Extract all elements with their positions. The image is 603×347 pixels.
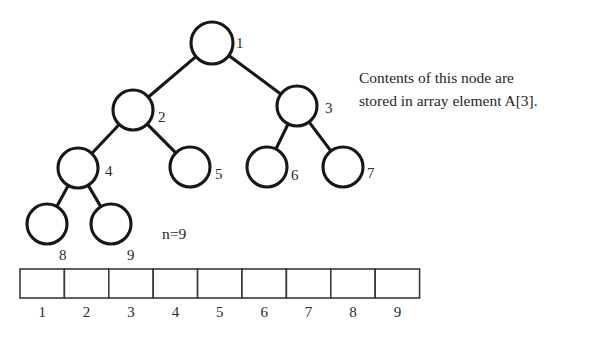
node-number-label-1: 1 bbox=[236, 35, 244, 51]
tree-diagram: 123456789 123456789 bbox=[0, 0, 603, 347]
tree-node-6[interactable]: 6 bbox=[247, 147, 299, 187]
array-cell-box-3[interactable] bbox=[109, 269, 153, 298]
tree-node-1[interactable]: 1 bbox=[191, 22, 244, 64]
node-circle-1[interactable] bbox=[191, 22, 233, 64]
node-circle-7[interactable] bbox=[323, 147, 363, 187]
node-number-label-5: 5 bbox=[215, 166, 223, 182]
array-cell-5[interactable]: 5 bbox=[198, 269, 242, 320]
node-circle-9[interactable] bbox=[91, 204, 131, 244]
array-cell-box-9[interactable] bbox=[375, 269, 419, 298]
array-cell-box-8[interactable] bbox=[331, 269, 375, 298]
array-cell-9[interactable]: 9 bbox=[375, 269, 419, 320]
array-index-label-1: 1 bbox=[38, 304, 46, 320]
tree-node-7[interactable]: 7 bbox=[323, 147, 375, 187]
node-circle-3[interactable] bbox=[277, 86, 317, 126]
tree-node-4[interactable]: 4 bbox=[58, 148, 113, 188]
array-cell-1[interactable]: 1 bbox=[20, 269, 64, 320]
array-cell-4[interactable]: 4 bbox=[153, 269, 197, 320]
node-number-label-4: 4 bbox=[105, 163, 113, 179]
node-circle-5[interactable] bbox=[170, 147, 210, 187]
array-index-label-3: 3 bbox=[127, 304, 135, 320]
array-index-label-9: 9 bbox=[394, 304, 402, 320]
array-index-label-8: 8 bbox=[349, 304, 357, 320]
array-cell-8[interactable]: 8 bbox=[331, 269, 375, 320]
node-count-label: n=9 bbox=[162, 222, 186, 245]
tree-edge-1-2 bbox=[147, 56, 196, 98]
node-number-label-3: 3 bbox=[325, 100, 333, 116]
array-cell-box-7[interactable] bbox=[286, 269, 330, 298]
tree-edge-4-9 bbox=[88, 184, 102, 207]
array-cell-6[interactable]: 6 bbox=[242, 269, 286, 320]
node-number-label-8: 8 bbox=[59, 247, 67, 263]
array-index-label-7: 7 bbox=[305, 304, 313, 320]
node-number-label-7: 7 bbox=[367, 165, 375, 181]
tree-edge-4-8 bbox=[56, 185, 69, 208]
array-cell-box-5[interactable] bbox=[198, 269, 242, 298]
array-cell-box-4[interactable] bbox=[153, 269, 197, 298]
tree-node-8[interactable]: 8 bbox=[27, 204, 67, 263]
tree-edge-3-6 bbox=[275, 123, 288, 150]
array-cell-box-6[interactable] bbox=[242, 269, 286, 298]
node-number-label-6: 6 bbox=[291, 167, 299, 183]
tree-node-2[interactable]: 2 bbox=[113, 90, 166, 130]
array-cell-box-2[interactable] bbox=[64, 269, 108, 298]
annotation-line-1: Contents of this node are bbox=[359, 66, 538, 89]
tree-edge-3-7 bbox=[308, 121, 331, 152]
array-index-label-5: 5 bbox=[216, 304, 224, 320]
array-cell-2[interactable]: 2 bbox=[64, 269, 108, 320]
annotation-callout: Contents of this node are stored in arra… bbox=[359, 66, 538, 112]
array-index-label-2: 2 bbox=[83, 304, 91, 320]
array-index-label-4: 4 bbox=[172, 304, 180, 320]
tree-edge-2-4 bbox=[91, 124, 120, 154]
tree-node-5[interactable]: 5 bbox=[170, 147, 223, 187]
binary-tree-array-figure: 123456789 123456789 Contents of this nod… bbox=[0, 0, 603, 347]
tree-edge-1-3 bbox=[228, 55, 282, 95]
array-cell-7[interactable]: 7 bbox=[286, 269, 330, 320]
node-circle-2[interactable] bbox=[113, 90, 153, 130]
array-cell-3[interactable]: 3 bbox=[109, 269, 153, 320]
tree-node-9[interactable]: 9 bbox=[91, 204, 135, 263]
node-circle-8[interactable] bbox=[27, 204, 67, 244]
annotation-line-2: stored in array element A[3]. bbox=[359, 89, 538, 112]
node-circle-4[interactable] bbox=[58, 148, 98, 188]
array-index-label-6: 6 bbox=[260, 304, 268, 320]
node-number-label-9: 9 bbox=[127, 247, 135, 263]
tree-edge-2-5 bbox=[146, 123, 176, 153]
tree-node-3[interactable]: 3 bbox=[277, 86, 333, 126]
node-circle-6[interactable] bbox=[247, 147, 287, 187]
array-diagram: 123456789 bbox=[20, 269, 420, 320]
node-number-label-2: 2 bbox=[158, 109, 166, 125]
array-cell-box-1[interactable] bbox=[20, 269, 64, 298]
